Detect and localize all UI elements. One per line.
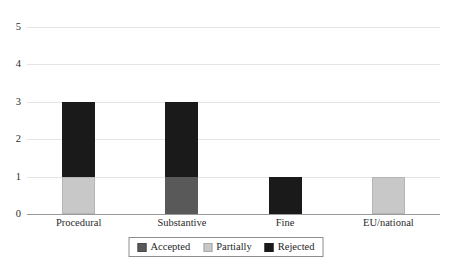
x-axis-label: Substantive [130, 216, 233, 230]
y-tick-label-4: 4 [16, 59, 21, 70]
legend-swatch-accepted-icon [138, 243, 147, 252]
x-axis-label: Fine [234, 216, 337, 230]
plot-area: 5 4 3 2 1 0 [27, 27, 440, 214]
legend-swatch-partially-icon [203, 243, 212, 252]
legend-label-accepted: Accepted [151, 241, 191, 253]
bar-segment-partially[interactable] [372, 177, 405, 214]
chart-title [0, 0, 452, 1]
chart-legend: Accepted Partially Rejected [129, 237, 324, 257]
x-axis-labels: ProceduralSubstantiveFineEU/national [27, 216, 440, 232]
bars-layer [27, 27, 440, 214]
bar-group [269, 27, 302, 214]
y-tick-label-0: 0 [16, 209, 21, 220]
y-tick-label-3: 3 [16, 97, 21, 108]
bar-group [62, 27, 95, 214]
bar-group [165, 27, 198, 214]
y-tick-label-2: 2 [16, 134, 21, 145]
bar-segment-rejected[interactable] [165, 102, 198, 177]
legend-swatch-rejected-icon [265, 243, 274, 252]
y-tick-label-5: 5 [16, 22, 21, 33]
x-axis-label: EU/national [337, 216, 440, 230]
legend-item-rejected[interactable]: Rejected [265, 241, 315, 253]
bar-stack[interactable] [269, 177, 302, 214]
legend-item-accepted[interactable]: Accepted [138, 241, 191, 253]
bar-segment-partially[interactable] [62, 177, 95, 214]
axis-baseline: 0 [27, 214, 440, 215]
bar-stack[interactable] [372, 177, 405, 214]
legend-label-rejected: Rejected [278, 241, 315, 253]
bar-segment-accepted[interactable] [165, 177, 198, 214]
bar-segment-rejected[interactable] [269, 177, 302, 214]
bar-segment-rejected[interactable] [62, 102, 95, 177]
x-axis-label: Procedural [27, 216, 130, 230]
bar-stack[interactable] [165, 102, 198, 214]
bar-stack[interactable] [62, 102, 95, 214]
legend-item-partially[interactable]: Partially [203, 241, 252, 253]
stacked-bar-chart: 5 4 3 2 1 0 ProceduralSubstantiveFineEU/… [0, 0, 452, 277]
legend-label-partially: Partially [216, 241, 252, 253]
y-tick-label-1: 1 [16, 171, 21, 182]
bar-group [372, 27, 405, 214]
